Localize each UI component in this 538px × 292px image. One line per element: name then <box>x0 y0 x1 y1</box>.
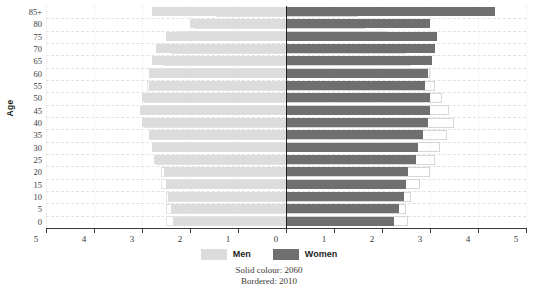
y-axis-tick-label: 15 <box>2 180 42 190</box>
bar-men-2060 <box>168 192 286 201</box>
x-axis-tick-label: 5 <box>506 234 526 244</box>
y-axis-tick-label: 55 <box>2 81 42 91</box>
bar-women-2060 <box>286 143 418 152</box>
y-axis-tick-label: 80 <box>2 19 42 29</box>
y-axis-tick-label: 25 <box>2 155 42 165</box>
bar-women-2060 <box>286 19 430 28</box>
legend-label-men: Men <box>233 249 251 259</box>
bar-men-2060 <box>166 180 286 189</box>
y-axis-labels: 85+80757065605550454035302520151050 <box>0 6 42 228</box>
bar-women-2060 <box>286 81 425 90</box>
bar-men-2060 <box>140 106 286 115</box>
bar-women-2060 <box>286 32 437 41</box>
bar-women-2060 <box>286 217 394 226</box>
bar-women-2060 <box>286 180 406 189</box>
x-axis-tick-label: 1 <box>218 234 238 244</box>
bar-men-2060 <box>152 143 286 152</box>
y-axis-tick-label: 65 <box>2 56 42 66</box>
chart-caption: Solid colour: 2060 Bordered: 2010 <box>0 265 538 287</box>
x-axis-tick <box>382 228 383 233</box>
bar-women-2060 <box>286 56 432 65</box>
y-axis-tick-label: 40 <box>2 118 42 128</box>
x-axis-tick-label: 4 <box>74 234 94 244</box>
bar-women-2060 <box>286 69 428 78</box>
caption-line-1: Solid colour: 2060 <box>0 265 538 276</box>
y-axis-tick-label: 75 <box>2 32 42 42</box>
bar-men-2060 <box>142 118 286 127</box>
x-axis-tick-label: 3 <box>410 234 430 244</box>
x-axis-tick-label: 4 <box>458 234 478 244</box>
x-axis-tick-label: 5 <box>26 234 46 244</box>
legend-item-men: Men <box>201 249 251 260</box>
legend-item-women: Women <box>273 249 337 260</box>
y-axis-tick-label: 5 <box>2 204 42 214</box>
bar-men-2060 <box>166 32 286 41</box>
legend-swatch-men <box>201 249 227 260</box>
x-axis-tick <box>94 228 95 233</box>
y-axis-tick-label: 70 <box>2 44 42 54</box>
x-axis-tick-label: 2 <box>170 234 190 244</box>
legend-label-women: Women <box>305 249 337 259</box>
y-axis-tick-label: 85+ <box>2 7 42 17</box>
y-axis-tick-label: 0 <box>2 217 42 227</box>
zero-axis-line <box>286 6 287 230</box>
bar-men-2060 <box>149 81 286 90</box>
bar-men-2060 <box>173 217 286 226</box>
x-axis-tick-label: 1 <box>314 234 334 244</box>
x-gridline <box>526 6 527 228</box>
bar-men-2060 <box>190 19 286 28</box>
x-axis-tick <box>478 228 479 233</box>
x-axis-tick <box>238 228 239 233</box>
bar-women-2060 <box>286 118 428 127</box>
bar-women-2060 <box>286 93 430 102</box>
bar-men-2060 <box>164 167 286 176</box>
population-pyramid-chart: Age 85+80757065605550454035302520151050 … <box>0 0 538 292</box>
x-axis-tick <box>190 228 191 233</box>
bar-men-2060 <box>156 44 286 53</box>
bar-women-2060 <box>286 130 423 139</box>
bar-men-2060 <box>152 56 286 65</box>
bar-women-2060 <box>286 44 435 53</box>
bar-men-2060 <box>154 155 286 164</box>
y-axis-tick-label: 10 <box>2 192 42 202</box>
legend: MenWomen <box>0 247 538 261</box>
y-axis-tick-label: 20 <box>2 167 42 177</box>
x-axis-tick-label: 3 <box>122 234 142 244</box>
x-axis-tick <box>430 228 431 233</box>
bar-women-2060 <box>286 7 495 16</box>
y-axis-tick-label: 35 <box>2 130 42 140</box>
bar-men-2060 <box>149 69 286 78</box>
bar-women-2060 <box>286 106 430 115</box>
x-axis-tick-label: 0 <box>266 234 286 244</box>
bar-women-2060 <box>286 204 399 213</box>
x-axis-tick-label: 2 <box>362 234 382 244</box>
x-axis-tick <box>286 228 287 233</box>
caption-line-2: Bordered: 2010 <box>0 276 538 287</box>
bar-women-2060 <box>286 155 416 164</box>
bar-men-2060 <box>171 204 286 213</box>
x-axis-tick <box>46 228 47 233</box>
bar-women-2060 <box>286 167 408 176</box>
y-axis-tick-label: 30 <box>2 143 42 153</box>
legend-swatch-women <box>273 249 299 260</box>
cropped-title-remnant <box>120 0 300 4</box>
bar-women-2060 <box>286 192 404 201</box>
bar-men-2060 <box>142 93 286 102</box>
bar-men-2060 <box>152 7 286 16</box>
bar-men-2060 <box>149 130 286 139</box>
y-axis-tick-label: 60 <box>2 69 42 79</box>
y-axis-tick-label: 50 <box>2 93 42 103</box>
y-axis-tick-label: 45 <box>2 106 42 116</box>
x-axis-tick <box>142 228 143 233</box>
x-axis-tick <box>526 228 527 233</box>
x-axis-tick <box>334 228 335 233</box>
